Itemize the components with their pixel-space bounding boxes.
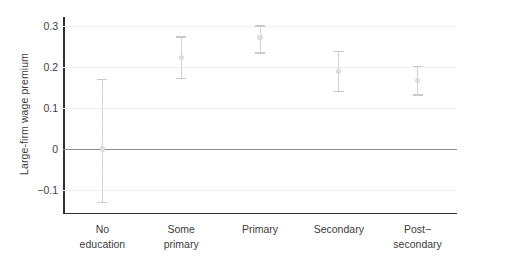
- data-point: [336, 69, 341, 74]
- y-tick-label: 0: [14, 143, 58, 155]
- data-point: [415, 78, 420, 83]
- y-axis-tick-labels: 0.30.20.10−0.1: [10, 18, 58, 213]
- y-tick-label: 0.2: [14, 61, 58, 73]
- x-tick-label: Post− secondary: [363, 222, 473, 251]
- error-bar-cap-upper: [255, 25, 265, 26]
- y-tick-label: 0.3: [14, 20, 58, 32]
- y-tick-label: −0.1: [14, 184, 58, 196]
- error-bar-cap-lower: [176, 78, 186, 79]
- gridline: [63, 190, 457, 191]
- error-bar-cap-upper: [413, 66, 423, 67]
- error-bar-whisker: [102, 79, 103, 202]
- error-bar-cap-lower: [334, 91, 344, 92]
- data-point: [179, 55, 184, 60]
- gridline: [63, 67, 457, 68]
- data-point: [257, 35, 262, 40]
- y-tick-label: 0.1: [14, 102, 58, 114]
- zero-reference-line: [63, 149, 457, 150]
- error-bar-cap-lower: [413, 94, 423, 95]
- error-bar-cap-upper: [334, 51, 344, 52]
- data-point: [100, 146, 105, 151]
- error-bar-cap-lower: [255, 52, 265, 53]
- error-bar-cap-lower: [97, 202, 107, 203]
- gridline: [63, 108, 457, 109]
- error-bar-cap-upper: [97, 79, 107, 80]
- plot-area: [63, 18, 457, 213]
- x-axis-tick-labels: No educationSome primaryPrimarySecondary…: [63, 222, 457, 262]
- error-bar-cap-upper: [176, 36, 186, 37]
- chart-container: Large-firm wage premium 0.30.20.10−0.1 N…: [0, 0, 506, 263]
